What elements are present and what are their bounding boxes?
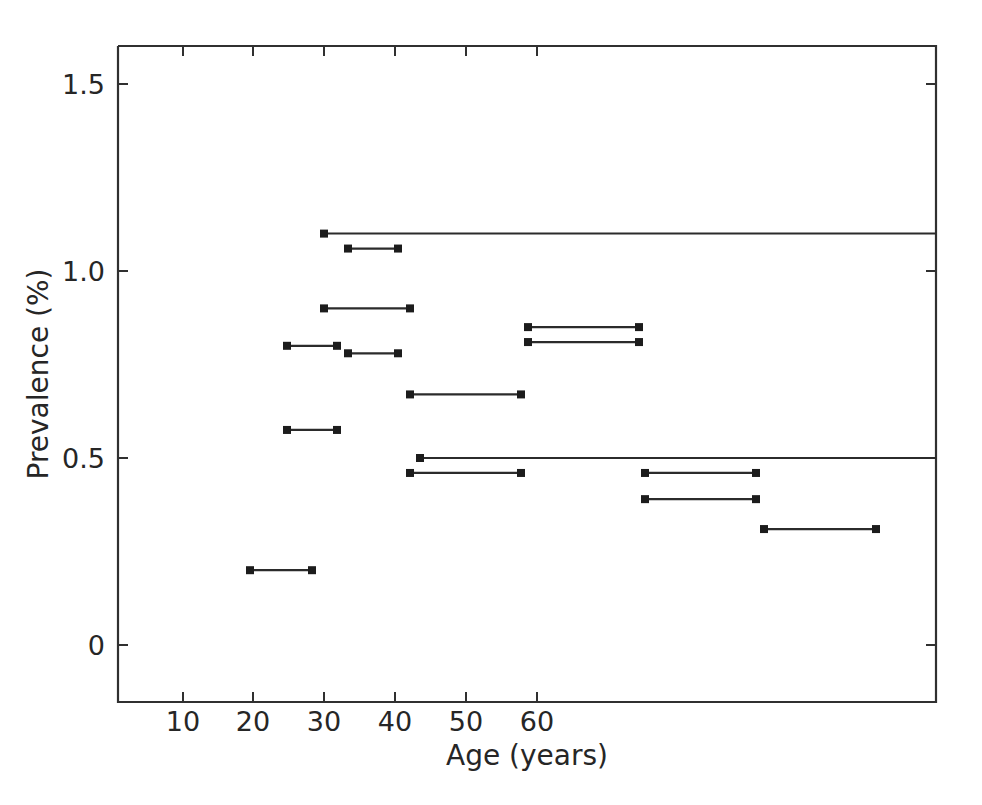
x-tick-label-1: 10 [166, 706, 200, 737]
segment-start-marker [246, 566, 254, 574]
prevalence-vs-age-plot: 1.5 1.0 0.5 0 10 20 30 40 50 60 Age (yea… [0, 0, 982, 805]
y-axis-title: Prevalence (%) [22, 269, 55, 480]
segment-start-marker [641, 495, 649, 503]
chart-figure: 1.5 1.0 0.5 0 10 20 30 40 50 60 Age (yea… [0, 0, 982, 805]
segment-start-marker [760, 525, 768, 533]
segment-start-marker [524, 323, 532, 331]
segment-start-marker [283, 342, 291, 350]
x-tick-label-5: 50 [449, 706, 483, 737]
segment-start-marker [641, 469, 649, 477]
segment-end-marker [333, 426, 341, 434]
segment-end-marker [635, 338, 643, 346]
y-tick-label-4: 0 [88, 630, 105, 661]
segment-start-marker [344, 349, 352, 357]
segment-start-marker [406, 390, 414, 398]
segment-end-marker [394, 245, 402, 253]
x-axis-title: Age (years) [446, 739, 608, 772]
segment-start-marker [320, 304, 328, 312]
x-tick-label-3: 30 [307, 706, 341, 737]
plot-background [118, 46, 936, 702]
segment-start-marker [524, 338, 532, 346]
segment-end-marker [635, 323, 643, 331]
segment-start-marker [320, 230, 328, 238]
segment-end-marker [517, 390, 525, 398]
y-tick-label-2: 1.0 [62, 256, 105, 287]
x-tick-label-6: 60 [520, 706, 554, 737]
segment-start-marker [283, 426, 291, 434]
segment-end-marker [333, 342, 341, 350]
segment-end-marker [394, 349, 402, 357]
segment-end-marker [752, 469, 760, 477]
segment-start-marker [344, 245, 352, 253]
x-tick-label-4: 40 [378, 706, 412, 737]
segment-end-marker [517, 469, 525, 477]
y-tick-label-3: 0.5 [62, 443, 105, 474]
segment-end-marker [308, 566, 316, 574]
segment-end-marker [752, 495, 760, 503]
figure-bottom-margin [0, 799, 982, 805]
x-tick-label-2: 20 [236, 706, 270, 737]
y-tick-label-1: 1.5 [62, 69, 105, 100]
segment-start-marker [416, 454, 424, 462]
segment-start-marker [406, 469, 414, 477]
segment-end-marker [872, 525, 880, 533]
segment-end-marker [406, 304, 414, 312]
